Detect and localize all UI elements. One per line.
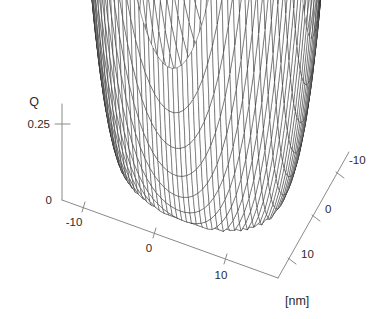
x-tick-label-0: 0: [146, 242, 152, 254]
y-tick-10: [288, 258, 296, 264]
surface-plot-svg: Q 0.25 0 -10 0 10 -10 0 10 [nm]: [0, 0, 379, 319]
y-tick-0: [312, 215, 320, 221]
y-tick-label-0: 0: [325, 203, 331, 215]
y-tick-label-10: 10: [301, 248, 314, 260]
z-tick-label-025: 0.25: [28, 118, 50, 130]
x-tick-label-10: 10: [215, 269, 228, 281]
surface-plot-figure: Q 0.25 0 -10 0 10 -10 0 10 [nm]: [0, 0, 379, 319]
z-tick-label-0: 0: [46, 194, 52, 206]
unit-label-nm: [nm]: [285, 294, 309, 308]
surface-mesh: [62, 0, 349, 231]
y-tick-minus10: [336, 172, 344, 178]
z-axis-title: Q: [29, 95, 39, 109]
x-tick-label-minus10: -10: [66, 216, 83, 228]
y-tick-label-minus10: -10: [349, 154, 366, 166]
